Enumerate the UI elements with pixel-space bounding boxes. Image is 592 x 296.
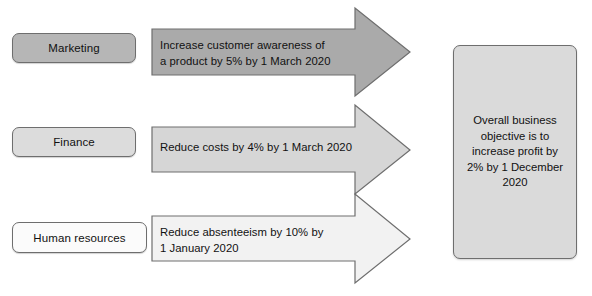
objective-text-finance: Reduce costs by 4% by 1 March 2020 [160, 140, 365, 156]
objective-text-marketing: Increase customer awareness of a product… [160, 38, 360, 69]
overall-objective-box: Overall business objective is to increas… [453, 45, 577, 259]
objective-text-human-resources: Reduce absenteeism by 10% by 1 January 2… [160, 225, 360, 256]
objectives-cascade-diagram: Marketing Finance Human resources Increa… [0, 0, 592, 296]
overall-objective-text: Overall business objective is to increas… [461, 113, 569, 191]
